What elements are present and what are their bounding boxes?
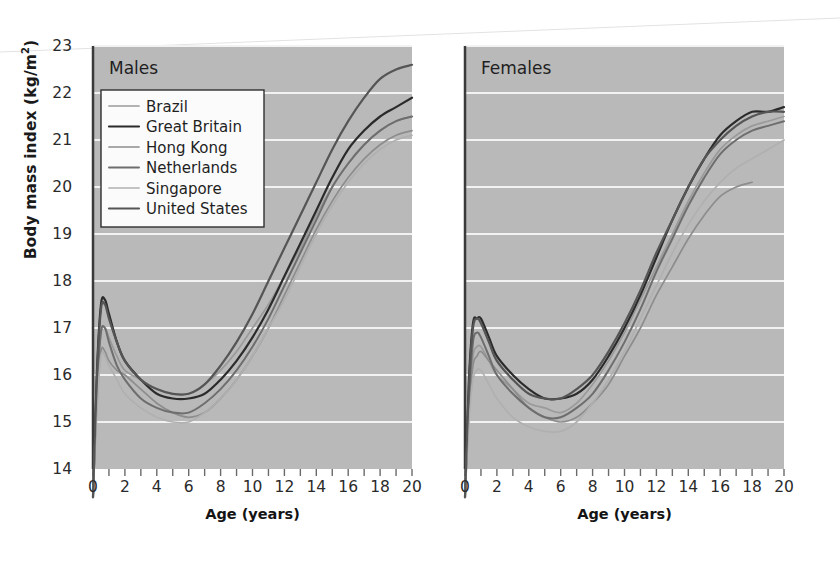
x-axis-title-females: Age (years): [577, 506, 672, 522]
x-tick-label: 10: [615, 478, 635, 496]
panel-females: Females: [465, 46, 784, 497]
x-tick-label: 16: [338, 478, 358, 496]
x-tick-label: 14: [678, 478, 698, 496]
x-tick-label: 8: [216, 478, 226, 496]
x-tick-label: 0: [88, 478, 98, 496]
legend-label-united-states: United States: [146, 200, 248, 218]
plot-area-background: [465, 46, 784, 469]
x-tick-label: 6: [184, 478, 194, 496]
x-tick-label: 20: [774, 478, 794, 496]
x-tick-label: 18: [370, 478, 390, 496]
x-tick-label: 18: [742, 478, 762, 496]
x-tick-label: 4: [152, 478, 162, 496]
x-tick-label: 2: [120, 478, 130, 496]
x-tick-label: 10: [243, 478, 263, 496]
bmi-growth-chart-figure: Body mass index (kg/m2) 1415161718192021…: [0, 0, 840, 580]
x-axis-title-males: Age (years): [205, 506, 300, 522]
panel-title-females: Females: [481, 58, 551, 78]
legend-label-netherlands: Netherlands: [146, 159, 238, 177]
legend-label-great-britain: Great Britain: [146, 118, 242, 136]
x-tick-label: 12: [647, 478, 667, 496]
x-tick-label: 2: [492, 478, 502, 496]
x-tick-label: 0: [460, 478, 470, 496]
legend-label-brazil: Brazil: [146, 98, 188, 116]
panel-title-males: Males: [109, 58, 158, 78]
legend-label-hong-kong: Hong Kong: [146, 139, 228, 157]
x-tick-label: 6: [556, 478, 566, 496]
x-tick-label: 4: [524, 478, 534, 496]
x-tick-label: 8: [588, 478, 598, 496]
x-tick-label: 20: [402, 478, 422, 496]
legend-label-singapore: Singapore: [146, 180, 222, 198]
x-tick-label: 12: [275, 478, 295, 496]
legend: BrazilGreat BritainHong KongNetherlandsS…: [101, 90, 264, 227]
x-tick-label: 14: [306, 478, 326, 496]
x-tick-label: 16: [710, 478, 730, 496]
